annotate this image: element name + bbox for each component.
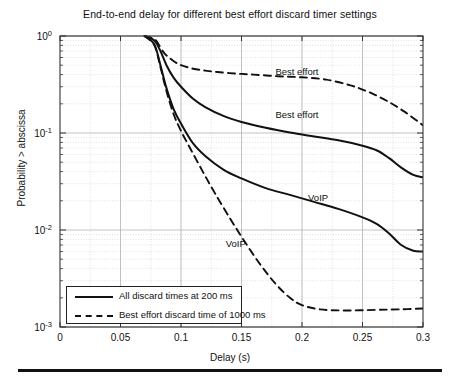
legend-label-dashed: Best effort discard time of 1000 ms bbox=[119, 309, 266, 320]
x-tick-label-0: 0 bbox=[40, 332, 80, 343]
curve-annotation-0: Best effort bbox=[275, 66, 318, 77]
x-tick-label-3: 0.15 bbox=[222, 332, 262, 343]
legend-item-dashed: Best effort discard time of 1000 ms bbox=[67, 306, 243, 325]
legend-label-solid: All discard times at 200 ms bbox=[119, 290, 233, 301]
legend-line-sample-solid bbox=[75, 296, 113, 298]
x-tick-label-1: 0.05 bbox=[101, 332, 141, 343]
footer-rule bbox=[18, 369, 442, 372]
x-tick-label-2: 0.1 bbox=[161, 332, 201, 343]
x-tick-label-4: 0.2 bbox=[282, 332, 322, 343]
figure-container: End-to-end delay for different best effo… bbox=[0, 0, 460, 377]
legend: All discard times at 200 ms Best effort … bbox=[66, 286, 242, 324]
x-tick-label-6: 0.3 bbox=[403, 332, 443, 343]
y-tick-label-0: 100 bbox=[16, 29, 52, 42]
legend-item-solid: All discard times at 200 ms bbox=[67, 287, 243, 306]
curve-annotation-1: Best effort bbox=[275, 109, 318, 120]
curve-annotation-3: VoIP bbox=[226, 238, 246, 249]
y-tick-label-2: 10-2 bbox=[16, 223, 52, 236]
x-tick-label-5: 0.25 bbox=[343, 332, 383, 343]
y-tick-label-1: 10-1 bbox=[16, 126, 52, 139]
curve-annotation-2: VoIP bbox=[308, 192, 328, 203]
legend-line-sample-dashed bbox=[75, 315, 113, 317]
